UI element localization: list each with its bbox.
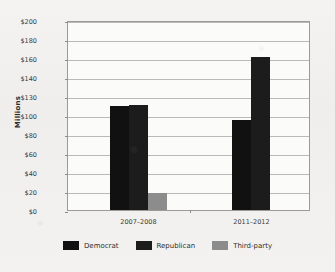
y-axis-tick-label: $0 [3,208,37,216]
y-axis-tick-mark [65,174,68,175]
y-axis-tick-mark [65,212,68,213]
gridline [68,22,309,23]
x-axis-tick-mark [190,210,191,213]
bar-chart-figure: Millions $0$20$40$60$80$100$130$140$160$… [0,0,335,272]
gridline [68,79,309,80]
y-axis-tick-label: $130 [3,94,37,102]
x-axis-tick-label: 2007–2008 [120,218,156,226]
y-axis-tick-label: $40 [3,170,37,178]
legend-item-label: Democrat [84,242,119,250]
legend-swatch-icon [63,241,79,250]
y-axis-tick-label: $80 [3,132,37,140]
bar-democrat [110,106,129,211]
bar-democrat [232,120,251,210]
legend-item-democrat[interactable]: Democrat [63,241,119,250]
y-axis-tick-label: $140 [3,75,37,83]
y-axis-tick-label: $100 [3,113,37,121]
chart-legend: DemocratRepublicanThird-party [0,241,335,250]
y-axis-tick-label: $20 [3,189,37,197]
plot-area: $0$20$40$60$80$100$130$140$160$180$20020… [67,21,310,211]
gridline [68,117,309,118]
y-axis-tick-mark [65,41,68,42]
gridline [68,193,309,194]
y-axis-tick-mark [65,22,68,23]
legend-item-republican[interactable]: Republican [136,241,196,250]
bar-third-party [148,193,167,210]
y-axis-tick-mark [65,136,68,137]
y-axis-tick-mark [65,193,68,194]
gridline [68,155,309,156]
gridline [68,136,309,137]
bar-republican [251,57,270,210]
y-axis-tick-label: $60 [3,151,37,159]
gridline [68,174,309,175]
bar-republican [129,105,148,210]
y-axis-tick-label: $180 [3,37,37,45]
legend-item-label: Third-party [233,242,272,250]
legend-swatch-icon [136,241,152,250]
y-axis-tick-mark [65,155,68,156]
y-axis-tick-label: $200 [3,18,37,26]
y-axis-tick-mark [65,60,68,61]
x-axis-tick-label: 2011–2012 [233,218,269,226]
gridline [68,98,309,99]
legend-item-third-party[interactable]: Third-party [212,241,272,250]
legend-item-label: Republican [157,242,196,250]
gridline [68,60,309,61]
y-axis-tick-mark [65,117,68,118]
y-axis-tick-mark [65,98,68,99]
y-axis-tick-label: $160 [3,56,37,64]
gridline [68,41,309,42]
legend-swatch-icon [212,241,228,250]
y-axis-tick-mark [65,79,68,80]
